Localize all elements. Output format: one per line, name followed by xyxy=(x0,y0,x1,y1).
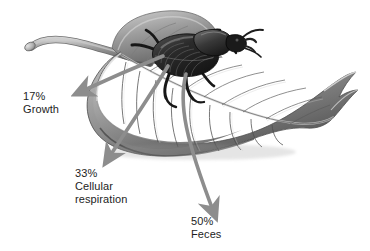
callout-feces: 50% Feces xyxy=(191,215,221,241)
callout-feces-label: Feces xyxy=(191,228,221,241)
callout-respiration-label-line2: respiration xyxy=(75,193,127,206)
callout-growth-percent: 17% xyxy=(23,90,59,103)
callout-growth: 17% Growth xyxy=(23,90,59,116)
arrow-growth xyxy=(80,56,163,92)
leaf-blade xyxy=(87,45,358,156)
energy-budget-figure: 17% Growth 33% Cellular respiration 50% … xyxy=(0,0,370,251)
callout-respiration-percent: 33% xyxy=(75,167,127,180)
callout-respiration: 33% Cellular respiration xyxy=(75,167,127,207)
callout-respiration-label-line1: Cellular xyxy=(75,180,127,193)
beetle-leaf-illustration xyxy=(0,0,370,251)
callout-feces-percent: 50% xyxy=(191,215,221,228)
callout-growth-label: Growth xyxy=(23,103,59,116)
